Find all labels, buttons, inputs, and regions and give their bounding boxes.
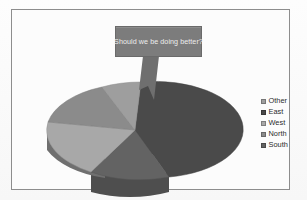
callout-annotation[interactable]: Should we be doing better? <box>115 26 202 57</box>
legend-swatch-icon <box>261 99 266 104</box>
legend: Other East West North South <box>261 96 301 151</box>
chart-frame: Should we be doing better? Other East We… <box>11 9 290 190</box>
legend-item-south[interactable]: South <box>261 140 301 150</box>
pie-chart: Should we be doing better? Other East We… <box>12 10 289 189</box>
legend-swatch-icon <box>261 110 266 115</box>
legend-swatch-icon <box>261 143 266 148</box>
legend-item-west[interactable]: West <box>261 118 301 128</box>
legend-swatch-icon <box>261 121 266 126</box>
legend-label: North <box>269 129 287 139</box>
legend-label: South <box>269 140 288 150</box>
legend-item-east[interactable]: East <box>261 107 301 117</box>
legend-swatch-icon <box>261 132 266 137</box>
callout-pointer-icon <box>113 56 204 101</box>
legend-label: Other <box>269 96 287 106</box>
legend-label: West <box>269 118 286 128</box>
legend-label: East <box>269 107 284 117</box>
page-background: Should we be doing better? Other East We… <box>0 0 307 200</box>
callout-text: Should we be doing better? <box>115 26 202 57</box>
legend-item-other[interactable]: Other <box>261 96 301 106</box>
legend-item-north[interactable]: North <box>261 129 301 139</box>
